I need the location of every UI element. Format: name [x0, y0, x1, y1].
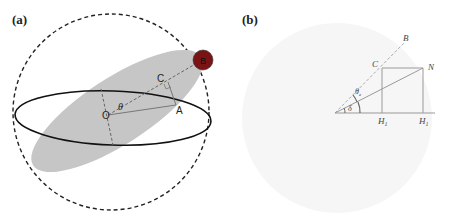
- panel-b: (b) B C N H1 H1 θe δ: [225, 0, 451, 218]
- label-b: B: [200, 56, 206, 66]
- projection-geometry-figure: B C N H1 H1 θe δ: [225, 0, 451, 218]
- label-b: B: [403, 33, 409, 43]
- label-delta: δ: [348, 104, 352, 113]
- label-c: C: [157, 73, 164, 84]
- label-n: N: [427, 62, 435, 72]
- panel-a-label: (a): [12, 12, 27, 28]
- gray-ellipsoid: [15, 29, 219, 193]
- background-disc: [242, 23, 432, 213]
- spheroid-geometry-figure: B C O A θ: [0, 0, 225, 218]
- panel-a: (a) B C O A θ: [0, 0, 225, 218]
- label-a: A: [176, 105, 183, 116]
- label-c: C: [372, 59, 379, 69]
- panel-b-label: (b): [242, 12, 258, 28]
- label-o: O: [102, 110, 110, 121]
- label-theta: θ: [118, 101, 123, 112]
